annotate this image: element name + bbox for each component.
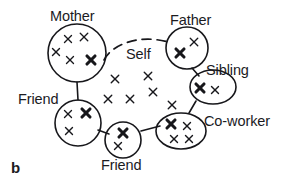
- tie-mother-friend-left: [77, 82, 78, 100]
- self-region-node-3: [126, 95, 134, 103]
- cluster-outline-father: [166, 27, 208, 69]
- label-self: Self: [126, 47, 151, 62]
- self-region-nodes-group: [104, 72, 176, 109]
- self-region-node-5: [168, 101, 176, 109]
- node-coworker-1: [184, 123, 191, 130]
- cluster-outline-friend_left: [55, 100, 101, 146]
- node-friend_left-0: [65, 111, 72, 118]
- node-friend_left-2: [66, 128, 73, 135]
- panel-label-b: b: [11, 160, 20, 175]
- node-mother-4-strong: [87, 56, 95, 64]
- node-father-0-strong: [176, 49, 184, 57]
- node-friend_bottom-0-strong: [119, 129, 127, 137]
- node-mother-1: [80, 33, 88, 41]
- node-sibling-1: [212, 87, 219, 94]
- node-sibling-0-strong: [196, 84, 204, 92]
- figure-panel-b: MotherFatherSelfSiblingFriendCo-workerFr…: [0, 0, 283, 188]
- node-mother-2: [53, 49, 60, 56]
- tie-sibling-coworker: [189, 101, 196, 113]
- node-coworker-2: [171, 136, 178, 143]
- self-region-node-1: [144, 72, 152, 80]
- node-mother-0: [65, 36, 72, 43]
- cluster-outlines-group: [48, 24, 236, 158]
- node-father-1: [190, 38, 198, 46]
- label-friend-bottom: Friend: [101, 158, 142, 173]
- node-mother-3: [67, 57, 74, 64]
- self-region-node-2: [104, 95, 112, 103]
- self-region-node-4: [149, 88, 157, 96]
- label-sibling: Sibling: [206, 63, 249, 78]
- label-mother: Mother: [50, 9, 95, 24]
- node-coworker-0-strong: [167, 120, 175, 128]
- label-father: Father: [170, 13, 211, 28]
- node-friend_left-1-strong: [82, 109, 90, 117]
- self-region-node-0: [111, 75, 119, 83]
- label-friend-left: Friend: [18, 92, 59, 107]
- label-coworker: Co-worker: [204, 114, 270, 129]
- node-friend_bottom-1: [115, 143, 122, 150]
- cluster-outline-friend_bottom: [105, 122, 141, 158]
- node-coworker-3: [186, 136, 193, 143]
- cluster-outline-coworker: [156, 113, 206, 149]
